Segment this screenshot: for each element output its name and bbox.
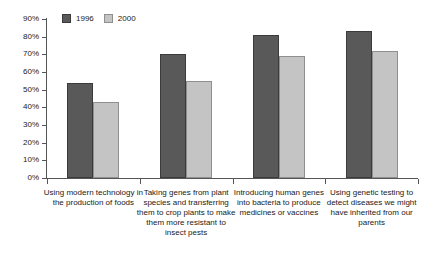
x-axis-tick	[325, 179, 326, 184]
y-axis-tick-label: 20%	[5, 139, 39, 147]
x-axis-tick	[233, 179, 234, 184]
y-axis-tick-label: 0%	[5, 174, 39, 182]
bar-chart: 1996 2000 90%80%70%60%50%40%30%20%10%0% …	[0, 0, 435, 259]
y-axis-tick-label: 50%	[5, 86, 39, 94]
y-axis-tick-label: 10%	[5, 156, 39, 164]
bar-1996-group-2	[160, 54, 186, 178]
y-axis-tick-label: 40%	[5, 103, 39, 111]
bar-2000-group-3	[279, 56, 305, 178]
y-axis-tick-label: 80%	[5, 33, 39, 41]
bar-2000-group-2	[186, 81, 212, 178]
y-axis-tick-label: 30%	[5, 121, 39, 129]
x-axis-tick	[47, 179, 48, 184]
bar-2000-group-4	[372, 51, 398, 178]
category-label-1: Using modern technology in the productio…	[43, 188, 144, 208]
bar-1996-group-3	[253, 35, 279, 178]
plot-area	[47, 19, 418, 178]
y-axis-tick-label: 60%	[5, 68, 39, 76]
category-label-4: Using genetic testing to detect diseases…	[321, 188, 422, 228]
category-label-3: Introducing human genes into bacteria to…	[229, 188, 330, 218]
bar-1996-group-4	[346, 31, 372, 178]
bar-2000-group-1	[93, 102, 119, 178]
bar-1996-group-1	[67, 83, 93, 178]
y-axis-tick-label: 70%	[5, 50, 39, 58]
category-label-2: Taking genes from plant species and tran…	[136, 188, 237, 238]
y-axis-tick-label: 90%	[5, 15, 39, 23]
x-axis-tick	[418, 179, 419, 184]
x-axis-tick	[140, 179, 141, 184]
